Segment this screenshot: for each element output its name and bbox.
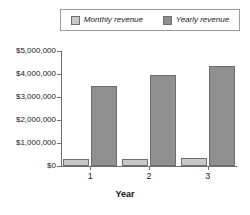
plot-area: $0$1,000,000$2,000,000$3,000,000$4,000,0…: [61, 51, 237, 166]
x-axis-label: 2: [146, 172, 151, 181]
y-axis-tick-mark: [57, 97, 61, 98]
y-axis-tick-mark: [57, 120, 61, 121]
bar-chart: Monthly revenue Yearly revenue $0$1,000,…: [0, 0, 250, 215]
y-axis-tick-label: $5,000,000: [16, 47, 56, 55]
bar-group: [181, 66, 235, 166]
y-axis-tick-label: $1,000,000: [16, 139, 56, 147]
x-axis-label: 1: [88, 172, 93, 181]
bar-yearly-revenue: [209, 66, 235, 166]
x-axis-title: Year: [0, 190, 250, 199]
bar-monthly-revenue: [122, 159, 148, 166]
y-axis-tick-label: $0: [47, 162, 56, 170]
x-axis-label: 3: [205, 172, 210, 181]
bar-monthly-revenue: [63, 159, 89, 166]
bar-monthly-revenue: [181, 158, 207, 166]
x-axis-tick-mark: [90, 166, 91, 170]
bar-yearly-revenue: [91, 86, 117, 167]
y-axis-tick-label: $2,000,000: [16, 116, 56, 124]
y-axis-tick-label: $4,000,000: [16, 70, 56, 78]
y-axis-tick-label: $3,000,000: [16, 93, 56, 101]
x-axis-tick-mark: [208, 166, 209, 170]
y-axis-tick-mark: [57, 166, 61, 167]
legend-entry-monthly-revenue: Monthly revenue: [71, 16, 143, 25]
y-axis-tick-mark: [57, 51, 61, 52]
legend-label-yearly-revenue: Yearly revenue: [176, 16, 229, 24]
legend-swatch-icon-monthly-revenue: [71, 16, 80, 25]
legend-entry-yearly-revenue: Yearly revenue: [163, 16, 229, 25]
legend-swatch-icon-yearly-revenue: [163, 16, 172, 25]
y-axis-tick-mark: [57, 74, 61, 75]
y-axis-tick-mark: [57, 143, 61, 144]
bar-yearly-revenue: [150, 75, 176, 166]
bar-group: [63, 86, 117, 167]
legend-label-monthly-revenue: Monthly revenue: [84, 16, 143, 24]
chart-legend: Monthly revenue Yearly revenue: [60, 9, 240, 31]
bar-group: [122, 75, 176, 166]
x-axis-tick-mark: [149, 166, 150, 170]
